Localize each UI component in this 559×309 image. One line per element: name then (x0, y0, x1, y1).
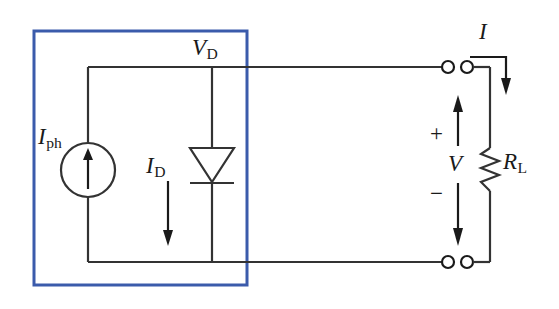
terminal-bottom-right (461, 256, 473, 268)
circuit-diagram: Iph ID VD I V RL + − (0, 0, 559, 309)
output-current-label: I (479, 20, 487, 43)
polarity-negative-label: − (430, 182, 443, 205)
diode-current-label: ID (146, 154, 165, 177)
photocurrent-source-label: Iph (38, 125, 62, 148)
photocurrent-source-arrow-head (83, 148, 93, 160)
output-current-arrow-head (501, 78, 511, 95)
diode-current-arrow-head (163, 230, 173, 246)
output-current-arrow-path (470, 57, 506, 80)
output-voltage-label: V (448, 152, 462, 175)
terminal-bottom-left (442, 256, 454, 268)
circuit-schematic-canvas (0, 0, 559, 309)
terminal-top-right (461, 61, 473, 73)
output-voltage-down-arrow-head (453, 228, 463, 246)
load-resistor-label: RL (503, 150, 527, 173)
load-resistor-zigzag (481, 148, 499, 191)
output-voltage-up-arrow-head (453, 95, 463, 112)
terminal-top-left (442, 61, 454, 73)
solar-cell-boundary-box (34, 31, 247, 285)
diode-triangle (190, 148, 234, 182)
polarity-positive-label: + (430, 122, 443, 145)
diode-voltage-label: VD (192, 36, 218, 59)
